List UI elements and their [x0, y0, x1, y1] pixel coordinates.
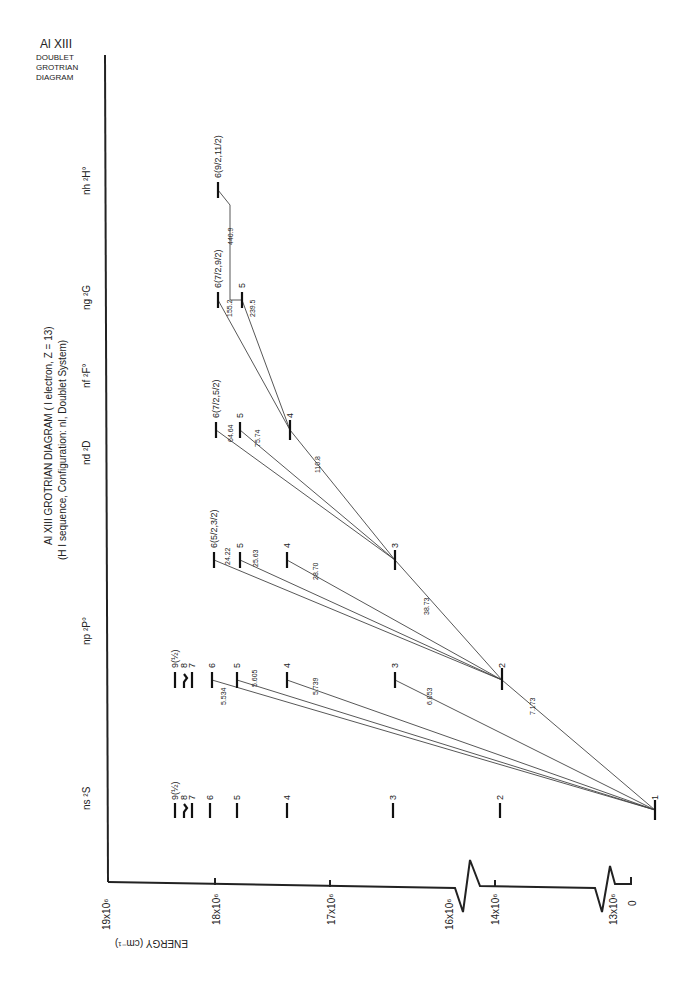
- energy-axis-label: ENERGY (cm⁻¹): [115, 938, 188, 949]
- svg-text:4: 4: [285, 413, 295, 418]
- svg-text:4: 4: [282, 663, 292, 668]
- svg-text:8: 8: [179, 663, 189, 668]
- svg-text:17x10⁶: 17x10⁶: [326, 894, 337, 925]
- svg-text:19x10⁶: 19x10⁶: [101, 899, 112, 930]
- svg-text:Al XIII GROTRIAN DIAGRAM ( l e: Al XIII GROTRIAN DIAGRAM ( l electron, Z…: [43, 326, 54, 545]
- svg-text:4: 4: [282, 543, 292, 548]
- svg-text:6.053: 6.053: [426, 687, 433, 705]
- svg-text:3: 3: [390, 663, 400, 668]
- column-nh: nh ²H°: [81, 167, 92, 195]
- svg-text:5.739: 5.739: [312, 677, 319, 695]
- svg-text:3: 3: [388, 795, 398, 800]
- svg-text:9(½): 9(½): [170, 649, 180, 668]
- svg-text:6(7/2,9/2): 6(7/2,9/2): [213, 249, 223, 288]
- svg-text:239.5: 239.5: [249, 299, 256, 317]
- svg-text:8: 8: [179, 795, 189, 800]
- svg-text:5: 5: [235, 413, 245, 418]
- column-headers: ns ²S np ²P° nd ²D nf ²F° ng ²G nh ²H°: [81, 167, 92, 810]
- svg-text:GROTRIAN: GROTRIAN: [36, 63, 78, 72]
- svg-text:2: 2: [495, 795, 505, 800]
- svg-text:5: 5: [232, 663, 242, 668]
- svg-text:5.534: 5.534: [220, 687, 227, 705]
- column-ns: ns ²S: [81, 786, 92, 810]
- svg-text:6(9/2,11/2): 6(9/2,11/2): [213, 135, 223, 178]
- svg-text:13x10⁶: 13x10⁶: [608, 894, 619, 925]
- svg-text:0: 0: [627, 900, 638, 906]
- svg-text:24.22: 24.22: [224, 547, 231, 565]
- svg-text:1: 1: [650, 795, 660, 800]
- svg-text:28.70: 28.70: [312, 562, 319, 580]
- column-nf: nf ²F°: [81, 363, 92, 388]
- svg-text:Al XIII: Al XIII: [40, 37, 72, 51]
- svg-text:440.9: 440.9: [227, 227, 234, 245]
- svg-text:155.2: 155.2: [226, 299, 233, 317]
- corner-label: Al XIII DOUBLET GROTRIAN DIAGRAM: [36, 37, 78, 82]
- nh-levels: 6(9/2,11/2): [213, 135, 223, 198]
- diagram-title: Al XIII GROTRIAN DIAGRAM ( l electron, Z…: [43, 326, 68, 560]
- svg-text:9(½): 9(½): [170, 781, 180, 800]
- svg-text:6(7/2,5/2): 6(7/2,5/2): [211, 379, 221, 418]
- axes: [105, 55, 631, 912]
- column-np: np ²P°: [81, 617, 92, 645]
- np-levels: 2 3 4 5 6 7 8 9(½): [170, 649, 507, 690]
- grotrian-diagram: Al XIII DOUBLET GROTRIAN DIAGRAM Al XIII…: [0, 0, 692, 1005]
- svg-text:5: 5: [232, 795, 242, 800]
- svg-text:5: 5: [235, 543, 245, 548]
- svg-text:(H I sequence, Configuration:: (H I sequence, Configuration: nl, Double…: [57, 340, 68, 560]
- svg-text:2: 2: [497, 663, 507, 668]
- svg-text:64.64: 64.64: [227, 424, 234, 442]
- svg-text:DIAGRAM: DIAGRAM: [36, 73, 74, 82]
- svg-text:5: 5: [237, 283, 247, 288]
- svg-text:38.73: 38.73: [423, 597, 430, 615]
- svg-text:DOUBLET: DOUBLET: [36, 53, 74, 62]
- transition-labels: 7.173 6.053 5.739 5.605 5.534 38.73 28.7…: [220, 227, 536, 715]
- svg-text:18x10⁶: 18x10⁶: [211, 894, 222, 925]
- svg-text:16x10⁶: 16x10⁶: [444, 899, 455, 930]
- axis-ticks: 19x10⁶ 18x10⁶ 17x10⁶ 16x10⁶ 14x10⁶ 13x10…: [101, 894, 638, 949]
- svg-text:7.173: 7.173: [529, 697, 536, 715]
- svg-text:4: 4: [282, 795, 292, 800]
- column-ng: ng ²G: [81, 285, 92, 310]
- svg-text:6: 6: [205, 795, 215, 800]
- svg-text:6(5/2,3/2): 6(5/2,3/2): [209, 509, 219, 548]
- column-nd: nd ²D: [81, 441, 92, 465]
- svg-text:25.63: 25.63: [252, 549, 259, 567]
- svg-text:110.8: 110.8: [314, 456, 321, 473]
- svg-text:75.74: 75.74: [254, 429, 261, 447]
- transition-lines: [212, 190, 655, 810]
- svg-text:14x10⁶: 14x10⁶: [490, 894, 501, 925]
- ns-levels: 1 2 3 4 5 6 7 8 9(½): [170, 781, 660, 820]
- svg-text:5.605: 5.605: [251, 669, 258, 687]
- svg-text:3: 3: [390, 543, 400, 548]
- svg-text:6: 6: [207, 663, 217, 668]
